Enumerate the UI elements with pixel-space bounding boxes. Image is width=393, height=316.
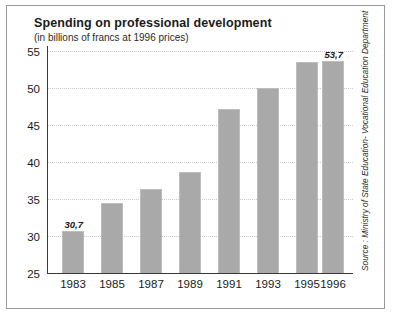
- chart-frame: Spending on professional development (in…: [6, 5, 385, 309]
- y-axis-line: [47, 46, 48, 273]
- y-tick-label: 35: [27, 194, 40, 206]
- x-tick-label: 1989: [177, 278, 203, 290]
- bar: [101, 203, 123, 273]
- x-tick-label: 1987: [138, 278, 164, 290]
- chart-subtitle: (in billions of francs at 1996 prices): [34, 32, 189, 43]
- bar: [296, 62, 318, 273]
- x-tick-label: 1996: [320, 278, 346, 290]
- bar: [257, 88, 279, 273]
- y-tick-label: 25: [27, 268, 40, 280]
- y-tick-label: 45: [27, 120, 40, 132]
- x-tick-label: 1995: [294, 278, 320, 290]
- source-note: Source : Ministry of State Education- Vo…: [360, 53, 370, 271]
- gridline: 55: [47, 51, 353, 52]
- bar: [140, 189, 162, 273]
- bar: [179, 172, 201, 273]
- y-tick-label: 55: [27, 46, 40, 58]
- x-tick-label: 1985: [99, 278, 125, 290]
- y-tick-label: 50: [27, 83, 40, 95]
- y-tick-label: 40: [27, 157, 40, 169]
- plot-area: 55504540353025 30,753,7 1983198519871989…: [47, 46, 353, 273]
- x-tick-label: 1993: [255, 278, 281, 290]
- chart-title: Spending on professional development: [34, 16, 272, 30]
- bar: [218, 109, 240, 273]
- y-tick-label: 30: [27, 231, 40, 243]
- bar: 53,7: [322, 61, 344, 273]
- x-tick-label: 1983: [60, 278, 86, 290]
- bar-value-label: 30,7: [64, 219, 83, 230]
- bar-value-label: 53,7: [324, 49, 343, 60]
- x-tick-label: 1991: [216, 278, 242, 290]
- plot-inner: 55504540353025 30,753,7: [47, 51, 353, 273]
- bar: 30,7: [62, 231, 84, 273]
- x-axis-line: [47, 273, 353, 274]
